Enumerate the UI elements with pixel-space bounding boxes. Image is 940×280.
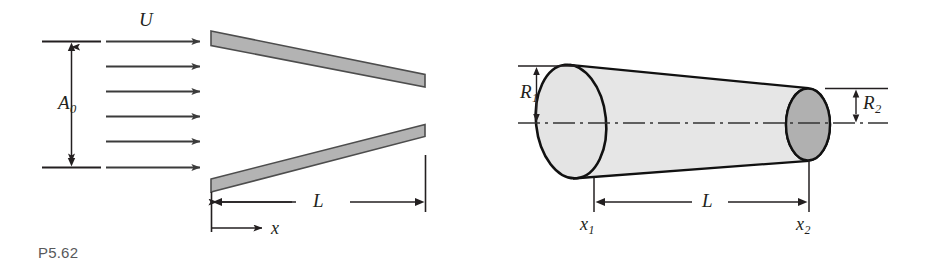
- inlet-velocity-label: U: [139, 10, 153, 29]
- lower-plate: [211, 125, 425, 193]
- length-label: L: [313, 191, 324, 210]
- station-inlet-label: x1: [580, 215, 594, 237]
- radius-inlet-label: R1: [520, 82, 538, 105]
- figure-p562: U A0 L x P5.62: [0, 0, 470, 280]
- figure-p562-drawing: [0, 0, 470, 280]
- figure-caption-p562: P5.62: [38, 244, 78, 261]
- outlet-face-outline: [786, 89, 830, 161]
- station-outlet-label: x2: [796, 215, 810, 237]
- inlet-area-label: A0: [58, 93, 76, 116]
- figure-p563: R1 R2 L x1 x2 P5.63: [470, 0, 940, 280]
- upper-plate: [211, 31, 425, 87]
- radius-outlet-label: R2: [863, 93, 881, 116]
- figure-p563-drawing: [470, 0, 940, 280]
- length-label-text: L: [702, 191, 713, 210]
- figure-sheet: U A0 L x P5.62: [0, 0, 940, 280]
- flow-arrow-group: [106, 42, 200, 168]
- x-axis-label: x: [271, 219, 279, 237]
